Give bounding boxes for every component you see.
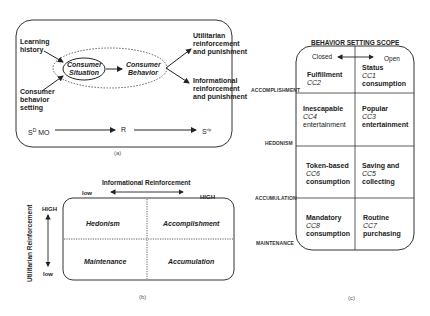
open-label: Open bbox=[384, 55, 400, 63]
quadrant-hedonism: Hedonism bbox=[86, 220, 120, 228]
cell-popular-entertainment: Popular CC3 entertainment bbox=[362, 105, 408, 129]
row-label-hedonism: HEDONISM bbox=[265, 140, 293, 146]
cell-token-based-consumption: Token-based CC6 consumption bbox=[306, 162, 350, 186]
utilitarian-axis-title: Utilitarian Reinforcement bbox=[26, 205, 34, 282]
row-label-accumulation: ACCUMULATION bbox=[255, 195, 297, 201]
caption-c: (c) bbox=[348, 295, 355, 301]
srp-label: Sr/p bbox=[202, 126, 211, 136]
quadrant-accumulation: Accumulation bbox=[168, 258, 214, 266]
row-label-maintenance: MAINTENANCE bbox=[256, 240, 294, 246]
response-label: R bbox=[121, 126, 126, 134]
quadrant-maintenance: Maintenance bbox=[84, 258, 126, 266]
informational-high-label: HIGH bbox=[200, 193, 215, 201]
informational-outcome-label: Informational reinforcement and punishme… bbox=[193, 77, 247, 101]
cell-status-consumption: Status CC1 consumption bbox=[362, 64, 406, 88]
cell-routine-purchasing: Routine CC7 purchasing bbox=[363, 214, 401, 238]
sd-mo-label: SD MO bbox=[28, 126, 50, 137]
behavior-setting-scope-title: BEHAVIOR SETTING SCOPE bbox=[311, 39, 399, 47]
informational-axis-title: Informational Reinforcement bbox=[102, 179, 190, 187]
utilitarian-outcome-label: Utilitarian reinforcement and punishment bbox=[193, 32, 247, 56]
cell-inescapable-entertainment: Inescapable CC4 entertainment bbox=[303, 105, 346, 129]
caption-b: (b) bbox=[139, 294, 146, 300]
utilitarian-high-label: HIGH bbox=[42, 205, 57, 213]
cell-mandatory-consumption: Mandatory CC8 consumption bbox=[306, 214, 350, 238]
consumer-behavior-label: Consumer Behavior bbox=[126, 61, 161, 77]
quadrant-accomplishment: Accomplishment bbox=[163, 220, 219, 228]
consumer-situation-label: Consumer Situation bbox=[67, 61, 101, 77]
utilitarian-low-label: low bbox=[43, 270, 53, 278]
caption-a: (a) bbox=[114, 150, 121, 156]
row-label-accomplishment: ACCOMPLISHMENT bbox=[251, 87, 300, 93]
informational-low-label: low bbox=[82, 189, 92, 197]
learning-history-label: Learning history bbox=[20, 38, 54, 54]
consumer-behavior-setting-label: Consumer behavior setting bbox=[20, 88, 55, 112]
cell-saving-and-collecting: Saving and CC5 collecting bbox=[362, 162, 399, 186]
cell-fulfillment: Fulfillment CC2 bbox=[307, 71, 342, 87]
closed-label: Closed bbox=[312, 53, 332, 61]
